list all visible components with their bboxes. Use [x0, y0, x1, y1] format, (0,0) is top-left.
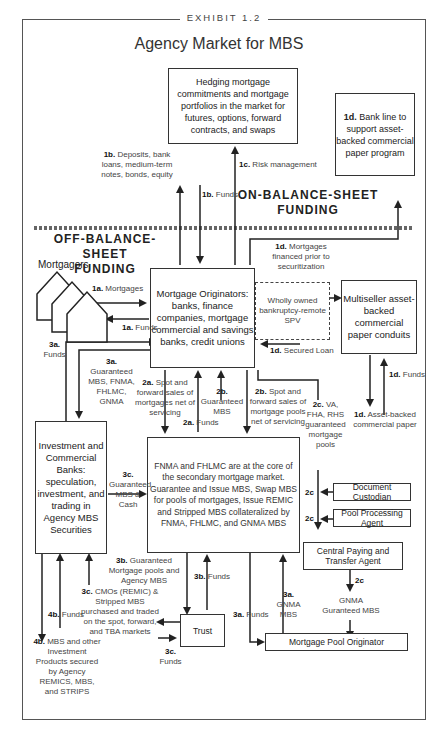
on-balance-sheet-heading: ON-BALANCE-SHEET FUNDING	[228, 188, 388, 218]
tag: 2c	[305, 488, 314, 497]
central-paying-text: Central Paying and Transfer Agent	[304, 546, 402, 566]
investment-banks-text: Investment and Commercial Banks: specula…	[36, 440, 106, 536]
text: CMOs (REMIC) & Stripped MBS purchased an…	[81, 587, 159, 636]
investment-banks-box: Investment and Commercial Banks: specula…	[35, 421, 107, 554]
label-3a-guaranteed: 3a. Guaranteed MBS, FNMA, FHLMC, GNMA	[84, 357, 139, 407]
label-1d-abcp: 1d. Asset-backed commercial paper	[350, 410, 420, 430]
label-2c-processing: 2c	[305, 514, 314, 524]
label-1a-funds: 1a. Funds	[122, 323, 158, 333]
tag: 1b.	[202, 190, 214, 199]
text: Funds	[43, 350, 65, 359]
tag: 1d.	[275, 242, 287, 251]
label-1b-deposits: 1b. Deposits, bank loans, medium-term no…	[97, 150, 177, 180]
originators-text: Mortgage Originators: banks, finance com…	[151, 288, 254, 348]
tag: 1c.	[239, 160, 250, 169]
tag: 3a.	[283, 590, 294, 599]
text: Funds	[196, 418, 218, 427]
text: Funds	[208, 572, 230, 581]
label-2a-spot: 2a. Spot and forward sales of mortgages …	[134, 378, 196, 418]
tag: 3a.	[106, 357, 117, 366]
fnma-text: FNMA and FHLMC are at the core of the se…	[148, 461, 299, 530]
tag: 1a.	[92, 284, 103, 293]
spv-text: Wholly owned bankruptcy-remote SPV	[256, 296, 329, 326]
label-1d-funds: 1d. Funds	[389, 370, 425, 380]
bank-line-box: 1d. Bank line to support asset-backed co…	[335, 93, 415, 176]
tag: 2c	[355, 576, 364, 585]
label-1d-secured-loan: 1d. Secured Loan	[270, 346, 334, 356]
label-3b-funds: 3b. Funds	[194, 572, 230, 582]
label-gnma-guaranteed: GNMA Guranteed MBS	[322, 596, 380, 616]
trust-text: Trust	[193, 626, 212, 636]
tag: 3c.	[82, 587, 93, 596]
text: Funds	[62, 610, 84, 619]
tag: 2b.	[216, 387, 228, 396]
document-custodian-text: Document Custodian	[334, 482, 410, 502]
label-3b-guaranteed: 3b. Guaranteed Mortgage pools and Agency…	[98, 556, 190, 586]
text: Funds	[159, 657, 181, 666]
houses-icon	[37, 272, 107, 342]
label-3c-guaranteed: 3c. Guaranteed MBS & Cash	[109, 470, 147, 510]
label-2c-va-fha: 2c. VA, FHA, RHS guaranteed mortgage poo…	[303, 400, 348, 450]
tag: 2c	[305, 514, 314, 523]
text: Mortgages	[105, 284, 143, 293]
mortgagors-label: Mortgagors	[38, 260, 89, 270]
label-2c-paying: 2c	[355, 576, 364, 586]
tag: 3b.	[116, 556, 128, 565]
pool-processing-text: Pool Processing Agent	[334, 508, 410, 528]
tag: 3a.	[233, 610, 244, 619]
text: Guaranteed MBS & Cash	[109, 480, 151, 509]
off-balance-sheet-heading: OFF-BALANCE-SHEET FUNDING	[50, 232, 160, 277]
label-2b-spot: 2b. Spot and forward sales of mortgage p…	[249, 387, 307, 427]
mortgage-originators-box: Mortgage Originators: banks, finance com…	[150, 268, 255, 368]
text: GNMA MBS	[277, 600, 301, 619]
text: VA, FHA, RHS guaranteed mortgage pools	[305, 400, 345, 449]
tag: 2c.	[313, 400, 324, 409]
conduits-text: Multiseller asset-backed commercial pape…	[342, 293, 416, 341]
tag: 2a.	[142, 378, 153, 387]
label-1c-risk: 1c. Risk management	[239, 160, 317, 170]
fnma-fhlmc-box: FNMA and FHLMC are at the core of the se…	[147, 437, 300, 553]
spv-box: Wholly owned bankruptcy-remote SPV	[255, 282, 330, 340]
tag: 3c.	[122, 470, 133, 479]
label-2a-funds: 2a. Funds	[183, 418, 219, 428]
label-1a-mortgages: 1a. Mortgages	[92, 284, 143, 294]
tag: 3c.	[165, 647, 176, 656]
text: Funds	[246, 610, 268, 619]
bank-line-text: 1d. Bank line to support asset-backed co…	[336, 111, 414, 159]
label-1d-mortgages-financed: 1d. Mortgages financed prior to securiti…	[265, 242, 337, 272]
mortgage-pool-originator-box: Mortgage Pool Originator	[265, 633, 408, 651]
tag: 4b.	[33, 637, 45, 646]
text: Secured Loan	[284, 346, 334, 355]
abcp-conduits-box: Multiseller asset-backed commercial pape…	[341, 280, 417, 354]
central-paying-agent-box: Central Paying and Transfer Agent	[303, 542, 403, 570]
tag: 3b.	[194, 572, 206, 581]
label-3a-gnma: 3a. GNMA MBS	[271, 590, 306, 620]
text: Guaranteed MBS	[201, 397, 243, 416]
text: Funds	[135, 323, 157, 332]
tag: 1d.	[270, 346, 282, 355]
tag: 1d.	[389, 370, 401, 379]
label-2c-custodian: 2c	[305, 488, 314, 498]
text: Funds	[216, 190, 238, 199]
tag: 3a.	[49, 340, 60, 349]
label-4b-mbs: 4b. MBS and other Investment Products se…	[33, 637, 101, 697]
label-1b-funds: 1b. Funds	[202, 190, 238, 200]
tag: 1d.	[344, 112, 357, 122]
pool-originator-text: Mortgage Pool Originator	[289, 637, 384, 647]
label-3a-funds-left: 3a. Funds	[42, 340, 67, 360]
pool-processing-agent-box: Pool Processing Agent	[333, 509, 411, 527]
document-custodian-box: Document Custodian	[333, 483, 411, 501]
label-3a-funds-right: 3a. Funds	[233, 610, 269, 620]
text: GNMA Guranteed MBS	[322, 596, 379, 615]
label-2b-guaranteed: 2b. Guaranteed MBS	[200, 387, 244, 417]
tag: 1b.	[104, 150, 116, 159]
text: MBS and other Investment Products secure…	[36, 637, 101, 696]
tag: 2b.	[255, 387, 267, 396]
label-3c-funds: 3c. Funds	[158, 647, 183, 667]
label-4b-funds: 4b. Funds	[48, 610, 84, 620]
hedging-box: Hedging mortgage commitments and mortgag…	[168, 68, 298, 144]
text: Risk management	[252, 160, 316, 169]
text: Funds	[403, 370, 425, 379]
tag: 2a.	[183, 418, 194, 427]
tag: 1a.	[122, 323, 133, 332]
